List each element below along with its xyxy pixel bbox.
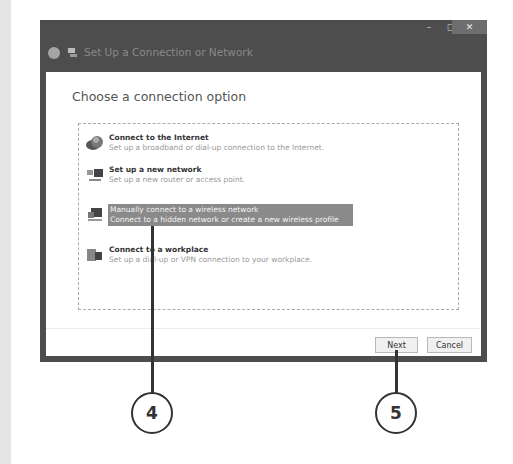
callout-4-leader-line <box>151 226 154 393</box>
option-title: Connect to a workplace <box>109 245 208 254</box>
workplace-phone-icon <box>85 246 105 264</box>
close-icon: ✕ <box>466 22 474 32</box>
cancel-button[interactable]: Cancel <box>427 337 472 353</box>
option-description: Set up a new router or access point. <box>109 175 245 184</box>
option-title: Set up a new network <box>109 165 201 174</box>
window-title: Set Up a Connection or Network <box>84 46 253 58</box>
option-title: Manually connect to a wireless network <box>109 205 259 214</box>
option-title: Connect to the Internet <box>109 133 209 142</box>
network-center-icon <box>67 47 78 58</box>
option-description: Set up a dial-up or VPN connection to yo… <box>109 255 312 264</box>
router-network-icon <box>85 166 105 184</box>
option-manual-wireless[interactable]: Manually connect to a wireless network C… <box>79 204 458 230</box>
callout-5-leader-line <box>395 350 398 393</box>
connection-options-list: Connect to the Internet Set up a broadba… <box>78 123 459 310</box>
page-margin-strip <box>0 0 11 464</box>
option-connect-internet[interactable]: Connect to the Internet Set up a broadba… <box>79 132 458 158</box>
minimize-icon: – <box>427 22 432 32</box>
dialog-content: Choose a connection option Connect to th… <box>46 72 481 356</box>
callout-5: 5 <box>375 392 417 434</box>
option-connect-workplace[interactable]: Connect to a workplace Set up a dial-up … <box>79 244 458 270</box>
page-title: Choose a connection option <box>72 89 246 104</box>
back-button[interactable] <box>48 47 60 59</box>
close-button[interactable]: ✕ <box>452 20 487 34</box>
wireless-computer-icon <box>85 206 105 224</box>
globe-network-icon <box>85 134 105 152</box>
footer-divider <box>46 328 481 329</box>
setup-connection-window: – □ ✕ Set Up a Connection or Network Cho… <box>40 20 487 362</box>
option-description: Connect to a hidden network or create a … <box>109 215 340 224</box>
option-setup-new-network[interactable]: Set up a new network Set up a new router… <box>79 164 458 190</box>
callout-4: 4 <box>131 392 173 434</box>
minimize-button[interactable]: – <box>418 20 440 34</box>
title-bar[interactable]: – □ ✕ Set Up a Connection or Network <box>40 20 487 72</box>
option-description: Set up a broadband or dial-up connection… <box>109 143 324 152</box>
